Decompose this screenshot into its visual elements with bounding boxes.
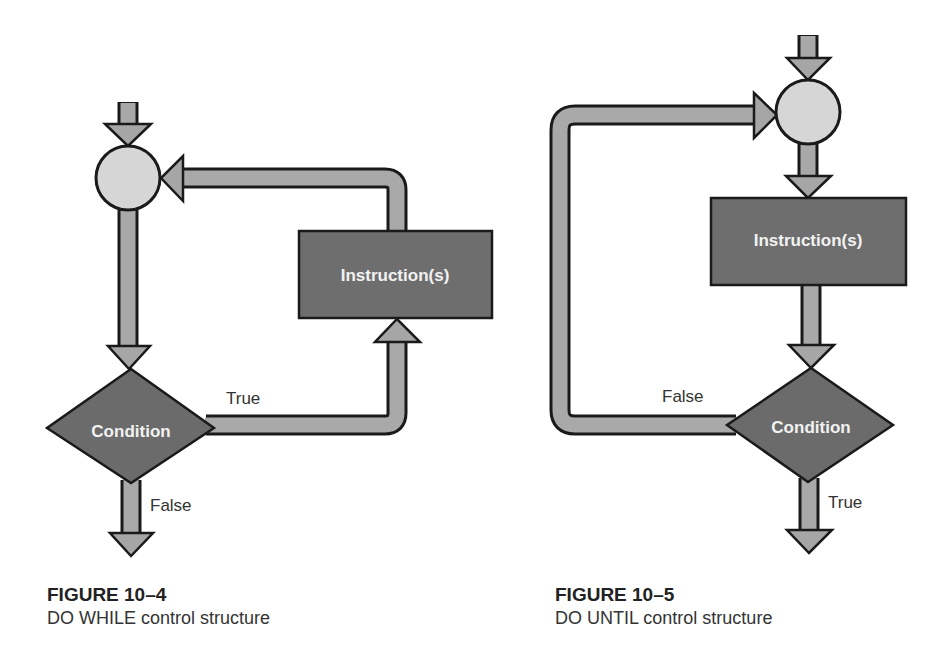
entry-arrow — [787, 35, 830, 80]
instructions-box: Instruction(s) — [711, 198, 906, 285]
condition-label: Condition — [771, 418, 850, 437]
condition-diamond: Condition — [727, 368, 893, 482]
true-branch-arrow — [205, 319, 420, 425]
instructions-label: Instruction(s) — [754, 231, 863, 250]
entry-arrow — [105, 102, 151, 146]
true-exit-arrow — [787, 477, 832, 553]
condition-diamond: Condition — [47, 369, 214, 483]
junction-to-instructions-arrow — [786, 142, 831, 198]
loop-back-arrow — [161, 156, 397, 231]
figure-description: DO UNTIL control structure — [555, 606, 772, 630]
figure-10-5-caption: FIGURE 10–5 DO UNTIL control structure — [555, 584, 772, 630]
instructions-label: Instruction(s) — [341, 266, 450, 285]
condition-label: Condition — [91, 422, 170, 441]
false-exit-arrow — [110, 479, 153, 556]
figure-number: FIGURE 10–4 — [47, 584, 270, 606]
instructions-box: Instruction(s) — [299, 231, 492, 318]
junction-circle — [96, 146, 160, 210]
junction-to-condition-arrow — [108, 208, 150, 369]
do-until-diagram: Instruction(s) Condition False True — [560, 35, 906, 553]
figure-description: DO WHILE control structure — [47, 606, 270, 630]
true-label: True — [226, 389, 260, 408]
figure-10-4-caption: FIGURE 10–4 DO WHILE control structure — [47, 584, 270, 630]
junction-circle — [776, 80, 840, 144]
instructions-to-condition-arrow — [789, 285, 834, 368]
do-while-diagram: Instruction(s) Condition True False — [47, 102, 492, 556]
flowchart-canvas: Instruction(s) Condition True False — [0, 0, 938, 664]
false-label: False — [150, 496, 192, 515]
false-label: False — [662, 387, 704, 406]
true-label: True — [828, 493, 862, 512]
figure-number: FIGURE 10–5 — [555, 584, 772, 606]
